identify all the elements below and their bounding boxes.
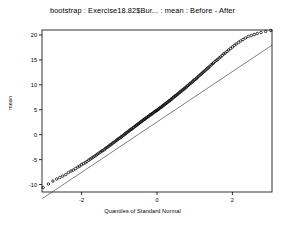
data-point: [264, 30, 267, 33]
qq-reference-line: [42, 45, 272, 199]
data-point: [244, 37, 247, 40]
x-axis-label: Quantiles of Standard Normal: [0, 208, 285, 214]
data-points-group: [42, 29, 272, 198]
data-point: [47, 183, 50, 186]
data-point: [270, 29, 273, 32]
data-point: [67, 171, 70, 174]
data-point: [55, 178, 58, 181]
data-point: [58, 176, 61, 179]
x-tick-label: 0: [155, 197, 158, 203]
data-point: [260, 31, 263, 34]
x-tick-label: -2: [79, 197, 84, 203]
y-tick-label: -5: [32, 157, 37, 163]
data-point: [250, 34, 253, 37]
y-tick-label: 20: [31, 32, 37, 38]
data-point: [52, 180, 55, 183]
x-tick-label: 2: [231, 197, 234, 203]
y-tick-label: 15: [31, 57, 37, 63]
data-point: [253, 33, 256, 36]
data-point: [256, 32, 259, 35]
y-tick-label: 10: [31, 82, 37, 88]
plot-canvas: -10-505101520-202: [0, 0, 285, 227]
y-tick-label: 5: [34, 107, 37, 113]
data-point: [65, 173, 68, 176]
data-point: [61, 175, 64, 178]
qq-plot-figure: bootstrap : Exercise18.82$Bur... : mean …: [0, 0, 285, 227]
y-tick-label: 0: [34, 132, 37, 138]
data-point: [242, 38, 245, 41]
data-point: [42, 186, 45, 189]
y-tick-label: -10: [29, 182, 37, 188]
data-point: [247, 35, 250, 38]
